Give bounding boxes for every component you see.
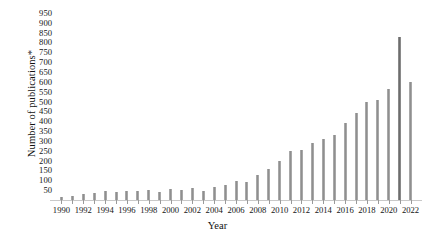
x-tick-mark (225, 200, 226, 204)
y-tick-label: 650 (26, 68, 52, 77)
bar (158, 192, 161, 200)
x-tick-mark (181, 200, 182, 204)
x-tick-mark (116, 200, 117, 204)
x-tick-mark (247, 200, 248, 204)
x-tick-mark (138, 200, 139, 204)
x-tick-mark (356, 200, 357, 204)
y-tick-label: 100 (26, 176, 52, 185)
x-axis-tick-labels: 1990199219941996199820002002200420062008… (56, 205, 416, 217)
bar (115, 192, 118, 200)
x-tick-mark (72, 200, 73, 204)
x-tick-mark (127, 200, 128, 204)
bar (245, 182, 248, 200)
x-tick-mark (291, 200, 292, 204)
bar (93, 193, 96, 200)
bar (376, 100, 379, 200)
x-tick-mark (94, 200, 95, 204)
x-tick-mark (367, 200, 368, 204)
x-tick-mark (171, 200, 172, 204)
y-tick-label: 200 (26, 156, 52, 165)
y-tick-label: 450 (26, 107, 52, 116)
x-tick-mark (203, 200, 204, 204)
x-tick-mark (214, 200, 215, 204)
y-tick-label: 950 (26, 9, 52, 18)
x-tick-mark (334, 200, 335, 204)
y-tick-label: 700 (26, 58, 52, 67)
x-tick-mark (149, 200, 150, 204)
bar (398, 37, 401, 200)
x-tick-mark (389, 200, 390, 204)
x-tick-mark (160, 200, 161, 204)
bar (202, 191, 205, 200)
y-axis-tick-labels: 5010015020025030035040045050055060065070… (26, 0, 52, 200)
y-tick-label: 300 (26, 137, 52, 146)
bar (289, 151, 292, 200)
x-tick-mark (269, 200, 270, 204)
bar (355, 113, 358, 200)
x-tick-mark (192, 200, 193, 204)
y-tick-label: 850 (26, 28, 52, 37)
bar (147, 190, 150, 200)
bar (213, 187, 216, 200)
x-tick-mark (301, 200, 302, 204)
x-tick-mark (323, 200, 324, 204)
y-tick-label: 50 (26, 186, 52, 195)
x-tick-mark (258, 200, 259, 204)
bar (169, 189, 172, 200)
x-tick-mark (345, 200, 346, 204)
bar (180, 190, 183, 200)
y-tick-label: 500 (26, 97, 52, 106)
bar (300, 150, 303, 200)
x-tick-mark (236, 200, 237, 204)
x-axis-title: Year (0, 220, 435, 231)
x-tick-mark (61, 200, 62, 204)
y-tick-label: 900 (26, 18, 52, 27)
bar (191, 188, 194, 200)
x-tick-mark (312, 200, 313, 204)
y-tick-label: 150 (26, 166, 52, 175)
bar (256, 175, 259, 200)
bar (365, 102, 368, 200)
x-tick-mark (411, 200, 412, 204)
x-tick-mark (83, 200, 84, 204)
x-tick-mark (280, 200, 281, 204)
x-tick-mark (400, 200, 401, 204)
x-tick-mark (378, 200, 379, 204)
plot-area (56, 8, 416, 200)
bar (387, 89, 390, 200)
bar (322, 139, 325, 200)
bar (344, 123, 347, 200)
bar (278, 161, 281, 200)
y-tick-label: 800 (26, 38, 52, 47)
bar (311, 143, 314, 200)
y-tick-label: 750 (26, 48, 52, 57)
bar (235, 181, 238, 200)
bar (136, 191, 139, 200)
bar-series (56, 8, 416, 200)
bar (267, 169, 270, 200)
publications-bar-chart: Number of publications* 5010015020025030… (0, 0, 435, 242)
bar (224, 185, 227, 200)
bar (104, 191, 107, 200)
x-tick-label: 2022 (394, 205, 428, 215)
bar (125, 191, 128, 200)
y-tick-label: 550 (26, 87, 52, 96)
y-tick-label: 250 (26, 146, 52, 155)
y-tick-label: 400 (26, 117, 52, 126)
y-tick-label: 600 (26, 78, 52, 87)
bar (409, 82, 412, 200)
x-tick-mark (105, 200, 106, 204)
bar (333, 135, 336, 200)
y-tick-label: 350 (26, 127, 52, 136)
